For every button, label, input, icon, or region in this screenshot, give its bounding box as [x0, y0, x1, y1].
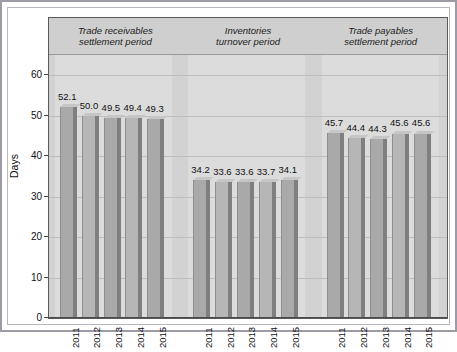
bar[interactable]: [125, 118, 138, 318]
bar-front-face: [60, 107, 73, 318]
x-tick-label-2013: 2013: [113, 327, 124, 348]
x-axis: 2011201220132014201520112012201320142015…: [48, 320, 448, 352]
group-caption-line1: Trade receivables: [78, 25, 153, 37]
bar[interactable]: [392, 134, 405, 319]
x-tick-label-2011: 2011: [336, 328, 347, 348]
bar-value-label: 34.1: [279, 164, 298, 175]
bar-front-face: [327, 133, 340, 318]
bar[interactable]: [82, 116, 95, 318]
bar-front-face: [259, 182, 272, 318]
bar-front-face: [215, 182, 228, 318]
bar[interactable]: [370, 139, 383, 318]
bar[interactable]: [60, 107, 73, 318]
y-tick-label-40: 40: [8, 150, 46, 161]
bar-value-label: 45.6: [390, 117, 409, 128]
x-tick-label-2013: 2013: [246, 327, 257, 348]
bar-side-face: [383, 139, 387, 318]
bar-value-label: 50.0: [80, 100, 99, 111]
bar-side-face: [340, 133, 344, 318]
bar-value-label: 33.6: [213, 166, 232, 177]
bar-value-label: 52.1: [58, 91, 77, 102]
x-tick-label-2011: 2011: [70, 328, 81, 348]
bar[interactable]: [104, 118, 117, 318]
bar-side-face: [294, 180, 298, 318]
group-caption-trade-payables: Trade payables settlement period: [314, 18, 447, 54]
gridline-60: [49, 75, 447, 76]
group-caption-line1: Trade payables: [348, 25, 413, 37]
bar-side-face: [250, 182, 254, 318]
bar[interactable]: [281, 180, 294, 318]
group-caption-line2: turnover period: [216, 36, 280, 48]
bar[interactable]: [193, 180, 206, 318]
bar-front-face: [104, 118, 117, 318]
bar-front-face: [147, 119, 160, 318]
y-tick-label-50: 50: [8, 109, 46, 120]
group-caption-line2: settlement period: [79, 36, 152, 48]
x-tick-label-2015: 2015: [423, 327, 434, 348]
bar-value-label: 44.4: [346, 122, 365, 133]
y-tick-label-60: 60: [8, 69, 46, 80]
bar[interactable]: [147, 119, 160, 318]
bar-side-face: [405, 134, 409, 319]
bar-side-face: [117, 118, 121, 318]
bar-front-face: [348, 138, 361, 318]
bar-value-label: 33.6: [235, 166, 254, 177]
bar-value-label: 45.7: [325, 117, 344, 128]
x-tick-label-2012: 2012: [91, 327, 102, 348]
bar-value-label: 44.3: [368, 123, 387, 134]
y-tick-label-0: 0: [8, 312, 46, 323]
bar-front-face: [125, 118, 138, 318]
group-caption-banner: Trade receivables settlement period Inve…: [49, 18, 447, 55]
figure-inner-border: Days 0102030405060 Trade receivables set…: [7, 7, 450, 325]
group-caption-inventories: Inventories turnover period: [182, 18, 315, 54]
x-tick-label-2011: 2011: [203, 328, 214, 348]
bar-front-face: [370, 139, 383, 318]
bar-value-label: 33.7: [257, 166, 276, 177]
bar-front-face: [392, 134, 405, 319]
bar-front-face: [281, 180, 294, 318]
x-tick-label-2015: 2015: [290, 327, 301, 348]
bar-side-face: [95, 116, 99, 318]
y-tick-label-20: 20: [8, 231, 46, 242]
x-tick-label-2014: 2014: [402, 327, 413, 348]
bar[interactable]: [259, 182, 272, 318]
group-caption-trade-receivables: Trade receivables settlement period: [49, 18, 182, 54]
x-axis-baseline: [49, 317, 447, 318]
x-tick-label-2014: 2014: [268, 327, 279, 348]
bar-value-label: 49.5: [102, 102, 121, 113]
bar[interactable]: [327, 133, 340, 318]
bar-side-face: [427, 134, 431, 319]
x-tick-label-2014: 2014: [135, 327, 146, 348]
bar[interactable]: [237, 182, 250, 318]
bar[interactable]: [348, 138, 361, 318]
x-tick-label-2015: 2015: [157, 327, 168, 348]
plot-canvas: 52.150.049.549.449.334.233.633.633.734.1…: [49, 55, 447, 318]
bar-side-face: [160, 119, 164, 318]
bar-value-label: 49.4: [123, 102, 142, 113]
group-caption-line2: settlement period: [344, 36, 417, 48]
bar[interactable]: [215, 182, 228, 318]
group-caption-line1: Inventories: [225, 25, 271, 37]
bar-side-face: [361, 138, 365, 318]
bar-value-label: 34.2: [191, 164, 210, 175]
x-tick-label-2012: 2012: [225, 327, 236, 348]
bar-front-face: [237, 182, 250, 318]
bar-side-face: [272, 182, 276, 318]
bar-value-label: 45.6: [412, 117, 431, 128]
y-tick-label-30: 30: [8, 190, 46, 201]
x-tick-label-2013: 2013: [380, 327, 391, 348]
bar-side-face: [138, 118, 142, 318]
bar-side-face: [228, 182, 232, 318]
bar[interactable]: [414, 134, 427, 319]
y-tick-label-10: 10: [8, 271, 46, 282]
bar-side-face: [73, 107, 77, 318]
x-tick-label-2012: 2012: [358, 327, 369, 348]
bar-front-face: [193, 180, 206, 318]
bar-side-face: [206, 180, 210, 318]
bar-front-face: [414, 134, 427, 319]
bar-value-label: 49.3: [145, 103, 164, 114]
bar-front-face: [82, 116, 95, 318]
plot-area: Trade receivables settlement period Inve…: [48, 17, 448, 319]
